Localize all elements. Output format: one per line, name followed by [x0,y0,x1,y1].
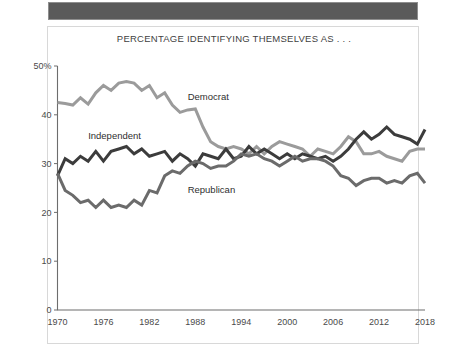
screenshot-root: PERCENTAGE IDENTIFYING THEMSELVES AS . .… [0,0,465,352]
top-banner-frame [46,0,420,22]
chart-card: PERCENTAGE IDENTIFYING THEMSELVES AS . .… [47,26,419,344]
chart-title: PERCENTAGE IDENTIFYING THEMSELVES AS . .… [48,33,420,44]
top-dark-banner [48,2,418,20]
